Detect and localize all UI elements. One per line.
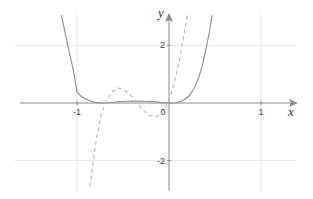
- x-tick-label: 1: [258, 107, 263, 117]
- y-tick-label: 2: [160, 40, 165, 50]
- x-tick-label: 0: [160, 107, 165, 117]
- y-tick-label: -2: [157, 156, 165, 166]
- function-plot: -1012-2 x y: [0, 0, 313, 199]
- x-axis-label: x: [287, 104, 294, 119]
- function-curve-solid: [61, 15, 212, 103]
- x-tick-label: -1: [73, 107, 81, 117]
- y-axis-label: y: [156, 5, 164, 20]
